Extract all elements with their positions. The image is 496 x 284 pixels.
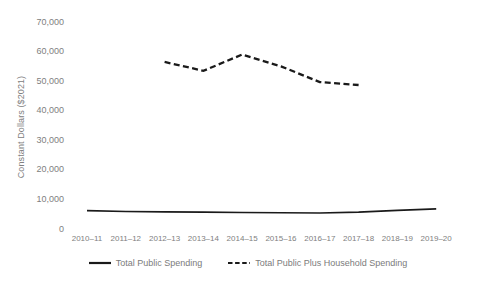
series-line-1 bbox=[87, 209, 436, 213]
legend-swatch-dashed-line-icon bbox=[228, 259, 250, 267]
legend-item-total-public-plus-household-spending[interactable]: Total Public Plus Household Spending bbox=[228, 258, 407, 268]
legend-swatch-solid-line-icon bbox=[89, 259, 111, 267]
x-axis-tick-label: 2017–18 bbox=[343, 234, 374, 243]
x-axis-tick-label: 2011–12 bbox=[111, 234, 142, 243]
series-line-2 bbox=[165, 55, 359, 85]
x-axis-tick-label: 2010–11 bbox=[72, 234, 103, 243]
x-axis-tick-label: 2018–19 bbox=[382, 234, 413, 243]
x-axis-tick-label: 2012–13 bbox=[149, 234, 180, 243]
legend-label-total-public-plus-household-spending: Total Public Plus Household Spending bbox=[255, 258, 407, 268]
x-axis-tick-label: 2014–15 bbox=[227, 234, 258, 243]
x-axis-tick-label: 2013–14 bbox=[188, 234, 219, 243]
legend-label-total-public-spending: Total Public Spending bbox=[116, 258, 203, 268]
x-axis-tick-label: 2015–16 bbox=[265, 234, 296, 243]
chart-legend: Total Public Spending Total Public Plus … bbox=[0, 258, 496, 268]
legend-item-total-public-spending[interactable]: Total Public Spending bbox=[89, 258, 203, 268]
chart-container: Constant Dollars ($2021) 70,00060,00050,… bbox=[0, 0, 496, 284]
x-axis-tick-label: 2019–20 bbox=[421, 234, 452, 243]
x-axis-tick-label: 2016–17 bbox=[304, 234, 335, 243]
